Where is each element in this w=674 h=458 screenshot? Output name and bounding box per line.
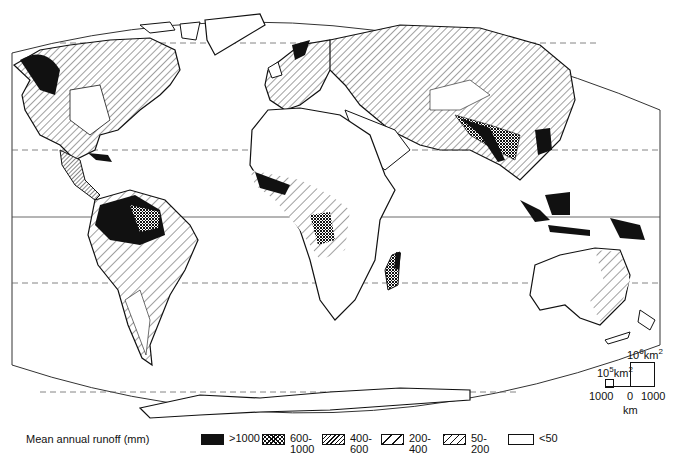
legend-swatch-medium-hatch [443, 434, 466, 445]
legend: Mean annual runoff (mm) >1000 600- 1000 … [0, 428, 674, 458]
scale-bar [605, 386, 653, 387]
legend-item-200-400: 200- 400 [381, 433, 431, 455]
legend-item-600-1000: 600- 1000 [262, 433, 314, 455]
legend-swatch-dense-hatch [322, 434, 345, 445]
large-area-box [630, 362, 655, 387]
greenland [205, 14, 265, 55]
scale-right-tick: 1000 [641, 390, 665, 402]
scale-left-tick: 1000 [589, 390, 613, 402]
large-box-label: 106km2 [627, 347, 663, 361]
legend-item-over-1000: >1000 [201, 433, 260, 445]
legend-item-under-50: <50 [508, 433, 558, 445]
antarctica [140, 388, 470, 418]
world-runoff-map [0, 0, 674, 428]
legend-swatch-blank [508, 434, 534, 445]
legend-item-400-600: 400- 600 [322, 433, 372, 455]
scale-zero-tick: 0 [627, 390, 633, 402]
legend-swatch-wide-hatch [381, 434, 404, 445]
area-scale: 106km2 105km2 1000 0 1000 km [583, 345, 673, 415]
legend-swatch-crosshatch [262, 434, 285, 445]
legend-item-50-200: 50- 200 [443, 433, 489, 455]
legend-swatch-solid [201, 434, 224, 445]
small-box-label: 105km2 [597, 365, 633, 379]
scale-unit: km [623, 404, 638, 416]
legend-title: Mean annual runoff (mm) [26, 433, 149, 445]
